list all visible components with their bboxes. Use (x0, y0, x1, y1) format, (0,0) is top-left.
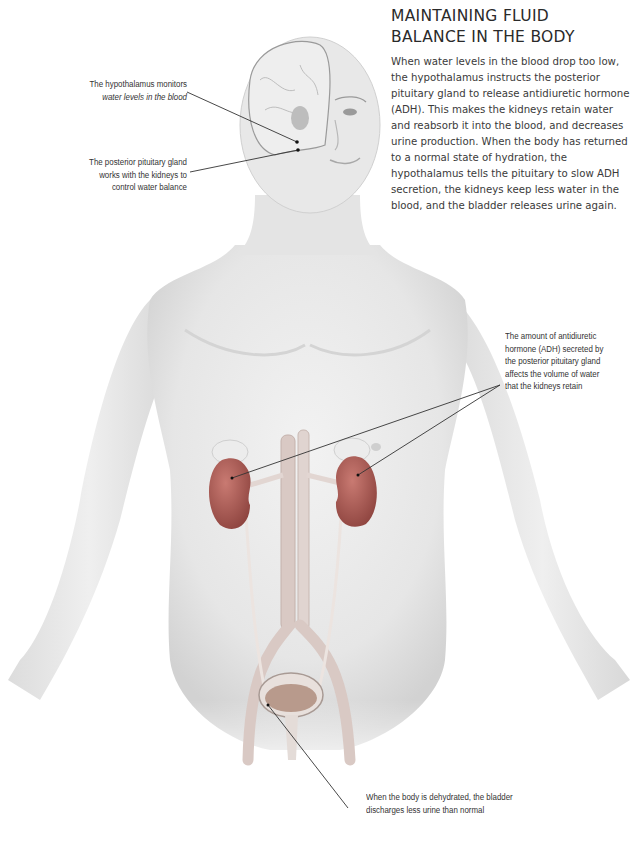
callout-pituitary-line-3: control water balance (15, 181, 187, 194)
left-kidney (209, 458, 251, 529)
head-illustration (240, 37, 380, 213)
callout-bladder-line-2: discharges less urine than normal (366, 804, 581, 817)
callout-adh: The amount of antidiuretic hormone (ADH)… (505, 330, 634, 393)
callout-bladder-line-1: When the body is dehydrated, the bladder (366, 791, 581, 804)
callout-hypothalamus: The hypothalamus monitors water levels i… (15, 78, 187, 103)
intro-paragraph: When water levels in the blood drop too … (391, 54, 631, 214)
callout-pituitary: The posterior pituitary gland works with… (15, 156, 187, 194)
callout-adh-line-4: affects the volume of water (505, 368, 634, 381)
callout-pituitary-line-1: The posterior pituitary gland (15, 156, 187, 169)
callout-hypothalamus-line-2: water levels in the blood (102, 92, 187, 102)
callout-hypothalamus-line-1: The hypothalamus monitors (15, 78, 187, 91)
callout-adh-line-3: the posterior pituitary gland (505, 355, 634, 368)
callout-pituitary-line-2: works with the kidneys to (15, 169, 187, 182)
callout-adh-line-5: that the kidneys retain (505, 380, 634, 393)
title-line-2: BALANCE IN THE BODY (391, 27, 631, 48)
title-line-1: MAINTAINING FLUID (391, 6, 631, 27)
callout-bladder: When the body is dehydrated, the bladder… (366, 791, 581, 816)
callout-adh-line-2: hormone (ADH) secreted by (505, 343, 634, 356)
callout-adh-line-1: The amount of antidiuretic (505, 330, 634, 343)
page-title: MAINTAINING FLUID BALANCE IN THE BODY (391, 6, 631, 48)
